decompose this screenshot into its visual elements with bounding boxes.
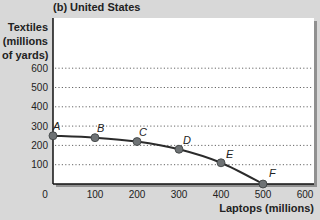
plot-area [53,18,314,184]
data-point [133,138,141,146]
point-label: C [139,126,147,138]
x-tick-label: 0 [42,189,48,200]
x-tick-label: 200 [129,189,146,200]
y-tick-label: 500 [31,82,48,93]
ppf-chart: 1002003004005006000100200300400500600ABC… [0,0,320,220]
point-label: B [97,122,104,134]
y-tick-label: 200 [31,140,48,151]
data-point [175,145,183,153]
data-point [259,180,267,188]
x-tick-label: 500 [255,189,272,200]
point-label: D [183,134,191,146]
x-tick-label: 600 [297,189,314,200]
x-axis-label: Laptops (millions) [219,202,314,214]
data-point [91,134,99,142]
x-tick-label: 100 [87,189,104,200]
point-label: E [226,148,234,160]
point-label: A [52,120,60,132]
y-tick-label: 300 [31,121,48,132]
y-tick-label: 100 [31,159,48,170]
x-tick-label: 300 [171,189,188,200]
x-tick-label: 400 [213,189,230,200]
y-tick-label: 600 [31,63,48,74]
data-point [217,159,225,167]
y-tick-label: 400 [31,101,48,112]
data-point [49,132,57,140]
